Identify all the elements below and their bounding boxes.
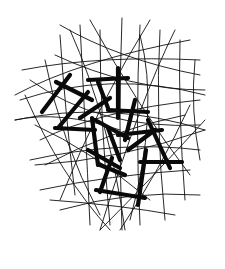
thin-line [45, 60, 100, 215]
thin-line [180, 40, 185, 200]
artwork-canvas [0, 0, 225, 269]
thin-line-layer [15, 18, 205, 230]
thick-stroke [55, 128, 95, 130]
thick-stroke [92, 118, 98, 165]
thin-line [22, 59, 200, 70]
thick-stroke [108, 110, 148, 112]
abstract-line-drawing [0, 0, 225, 269]
thin-line [55, 55, 205, 90]
thick-stroke [88, 78, 128, 80]
